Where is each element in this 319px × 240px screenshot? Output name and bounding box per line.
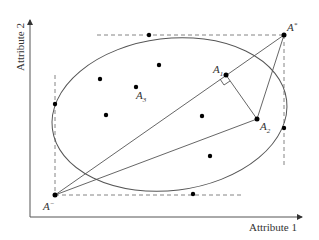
point-bottom-tangent <box>191 192 195 196</box>
label-a1: A1 <box>212 63 223 78</box>
point-a-minus <box>53 193 58 198</box>
y-axis-label: Attribute 2 <box>14 23 26 71</box>
point <box>104 113 108 117</box>
point <box>98 77 102 81</box>
point-a1 <box>224 73 229 78</box>
point <box>157 63 161 67</box>
x-axis-label: Attribute 1 <box>249 221 297 233</box>
distance-lines <box>55 35 284 195</box>
point-a-star <box>282 33 287 38</box>
point-left-tangent <box>53 102 57 106</box>
point <box>200 114 204 118</box>
label-a3: A3 <box>135 89 147 104</box>
label-a-star: A* <box>286 21 298 33</box>
point-right-tangent <box>282 126 286 130</box>
point <box>208 154 212 158</box>
label-a-minus: A− <box>42 200 55 212</box>
topsis-diagram: A* A− A1 A2 A3 Attribute 1 Attribute 2 <box>0 0 319 240</box>
point-top-tangent <box>147 33 151 37</box>
label-a2: A2 <box>259 120 271 135</box>
point-a2 <box>255 117 260 122</box>
